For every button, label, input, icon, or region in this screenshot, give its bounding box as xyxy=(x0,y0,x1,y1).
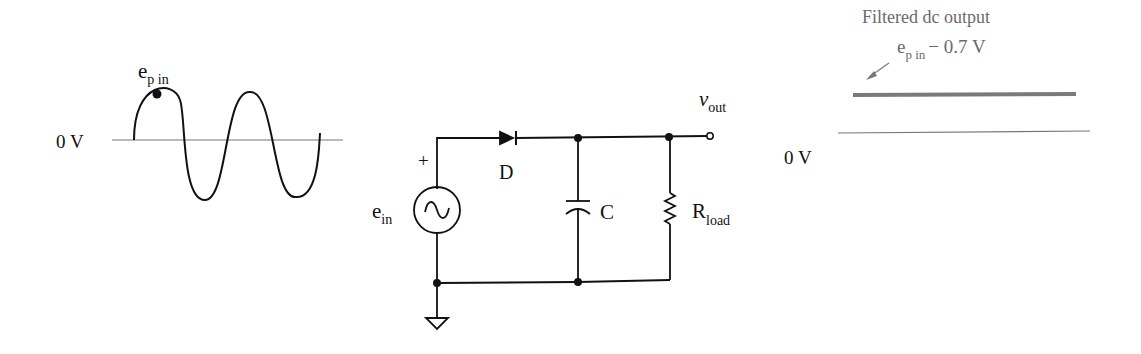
resistor-icon xyxy=(665,193,675,224)
input-waveform: 0 V ep in xyxy=(56,59,343,200)
output-label: vout xyxy=(699,87,726,115)
sine-glyph-icon xyxy=(425,202,449,218)
junction-dot xyxy=(574,278,582,286)
rectifier-diagram: 0 V ep in xyxy=(0,0,1141,354)
output-zero-axis xyxy=(838,131,1090,133)
diode-label: D xyxy=(499,161,513,183)
wire-source-to-diode xyxy=(437,138,500,189)
input-zero-label: 0 V xyxy=(56,131,84,152)
diode-icon xyxy=(500,132,513,144)
dc-output-line xyxy=(853,94,1076,95)
rectifier-circuit xyxy=(414,131,713,329)
output-waveform: Filtered dc output ep in− 0.7 V 0 V xyxy=(784,7,1090,168)
peak-marker-dot xyxy=(153,90,162,99)
source-polarity-label: + xyxy=(418,150,429,171)
capacitor-label: C xyxy=(600,200,614,224)
input-sine-wave xyxy=(134,88,320,200)
resistor-label: Rload xyxy=(692,199,730,228)
source-label: ein xyxy=(372,199,392,227)
ground-icon xyxy=(426,318,448,329)
wire-top-rail xyxy=(516,136,708,138)
wire-bottom-rail xyxy=(437,280,670,283)
peak-label: ep in xyxy=(138,59,169,87)
junction-dot xyxy=(665,133,673,141)
output-terminal-icon xyxy=(707,133,713,139)
output-zero-label: 0 V xyxy=(784,147,812,168)
dc-level-label: ep in− 0.7 V xyxy=(897,36,986,62)
output-title: Filtered dc output xyxy=(862,7,990,27)
